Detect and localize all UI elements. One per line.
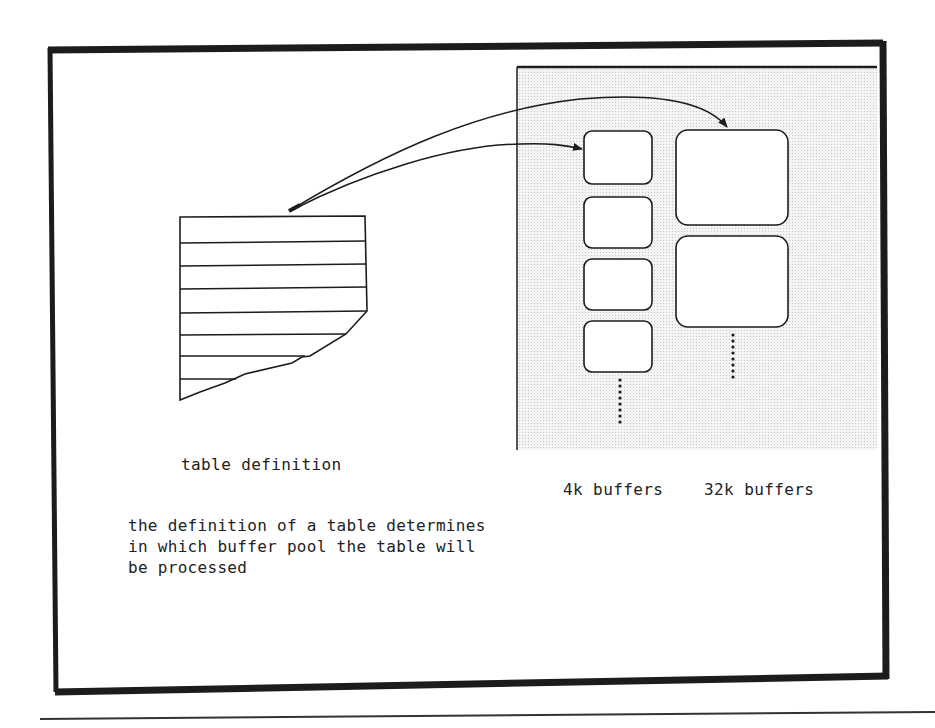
buffer-32k-1: [676, 130, 788, 225]
page-rule: [40, 712, 935, 719]
4k-buffers-label: 4k buffers: [563, 480, 663, 499]
buffer-4k-2: [584, 197, 652, 248]
slide-diagram: [0, 0, 935, 728]
32k-buffers-label: 32k buffers: [704, 480, 814, 499]
caption-line-2: in which buffer pool the table will: [128, 536, 486, 557]
caption: the definition of a table determines in …: [128, 515, 486, 578]
table-definition-shape: [180, 216, 367, 400]
caption-line-1: the definition of a table determines: [128, 515, 486, 536]
table-definition-label: table definition: [181, 455, 342, 474]
buffer-4k-4: [584, 321, 652, 372]
caption-line-3: be processed: [128, 557, 486, 578]
buffer-4k-3: [584, 259, 652, 310]
buffer-4k-1: [584, 131, 652, 184]
buffer-32k-2: [676, 236, 788, 327]
